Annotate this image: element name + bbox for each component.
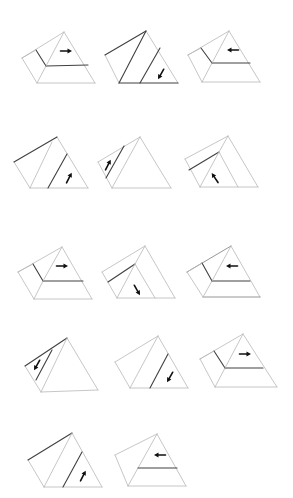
- pyramid-figure-8: [102, 246, 175, 298]
- pyramid-figure-13: [28, 433, 102, 487]
- figure-13-edge-1: [72, 433, 102, 487]
- figure-2-edge-1: [146, 31, 178, 83]
- figure-12-edge-3: [200, 359, 215, 387]
- figure-4-edge-3: [14, 162, 30, 188]
- figure-10-edge-2: [41, 390, 98, 392]
- arrow-left-icon: [154, 453, 166, 458]
- figure-14-edge-1: [157, 434, 186, 486]
- figure-3-edge-3: [188, 55, 202, 82]
- figure-3-edge-9: [188, 48, 201, 55]
- figure-14-edge-3: [115, 455, 128, 486]
- arrow-head: [154, 453, 159, 458]
- pyramid-figure-6: [185, 136, 258, 187]
- arrow-up-right-icon: [106, 160, 111, 170]
- figure-9-edge-9: [187, 263, 202, 272]
- pyramid-figure-5: [98, 137, 171, 188]
- pyramid-figure-1: [22, 32, 95, 83]
- figure-4-edge-4: [14, 137, 57, 162]
- figure-9-edge-3: [187, 272, 203, 297]
- arrow-head: [247, 352, 252, 357]
- figure-7-edge-9: [18, 264, 33, 272]
- figure-5-edge-3: [98, 162, 112, 188]
- pyramid-figure-11: [115, 336, 188, 388]
- figure-13-edge-6: [63, 452, 82, 487]
- pyramid-figure-10: [25, 338, 98, 392]
- pyramid-figure-4: [14, 137, 88, 188]
- figure-13-edge-3: [28, 460, 44, 487]
- figure-2-edge-3: [105, 55, 119, 83]
- figure-8-edge-5: [108, 264, 135, 282]
- figure-10-edge-6: [36, 350, 52, 380]
- figure-14-edge-5: [128, 434, 157, 486]
- figure-8-edge-1: [145, 246, 175, 298]
- figure-6-edge-1: [228, 136, 258, 187]
- arrow-down-right-icon: [134, 285, 140, 295]
- figure-12-edge-5: [214, 351, 225, 368]
- figure-7-edge-7: [34, 281, 43, 299]
- figure-9-edge-5: [202, 263, 212, 281]
- figure-4-edge-5: [30, 142, 52, 188]
- figure-11-edge-3: [115, 362, 130, 388]
- figure-2-edge-6: [140, 48, 160, 83]
- arrow-right-icon: [240, 352, 252, 357]
- arrow-right-icon: [61, 49, 73, 54]
- arrow-down-left-icon: [167, 372, 173, 382]
- figure-11-edge-4: [115, 336, 158, 362]
- figure-11-edge-1: [158, 336, 188, 388]
- figure-10-edge-1: [67, 338, 98, 390]
- figure-6-edge-3: [185, 159, 200, 187]
- figure-1-edge-6: [46, 65, 88, 66]
- figure-8-edge-7: [117, 264, 135, 298]
- figure-7-edge-1: [62, 247, 92, 299]
- figure-7-edge-5: [33, 264, 43, 281]
- figure-1-edge-9: [22, 50, 36, 58]
- figure-7-edge-3: [18, 272, 34, 299]
- figure-12-edge-1: [243, 334, 277, 387]
- arrow-down-left-icon: [158, 69, 164, 79]
- figure-8-edge-3: [102, 272, 117, 298]
- arrow-head: [227, 48, 232, 53]
- pyramid-figure-7: [18, 247, 92, 299]
- figure-9-edge-1: [231, 246, 260, 297]
- pyramid-figure-12: [200, 334, 277, 387]
- pyramid-puzzle-diagram: [0, 0, 293, 498]
- figure-3-edge-1: [229, 31, 260, 82]
- arrow-head: [64, 264, 69, 269]
- figure-1-edge-1: [64, 32, 95, 83]
- arrow-left-icon: [226, 264, 238, 269]
- pyramid-figure-3: [188, 31, 260, 82]
- figure-3-edge-5: [201, 48, 212, 63]
- arrow-up-right-icon: [67, 173, 72, 183]
- figure-1-edge-7: [37, 66, 46, 83]
- figure-4-edge-6: [48, 154, 67, 188]
- figure-3-edge-7: [202, 63, 212, 82]
- figure-12-edge-7: [215, 368, 225, 387]
- arrow-right-icon: [57, 264, 69, 269]
- figure-1-edge-3: [22, 58, 37, 83]
- pyramid-figure-14: [115, 434, 186, 486]
- figure-5-edge-4: [98, 137, 140, 162]
- arrow-down-left-icon: [34, 360, 40, 370]
- pyramid-figure-2: [105, 31, 178, 83]
- arrow-head: [68, 49, 73, 54]
- pyramid-figure-9: [187, 246, 260, 297]
- figure-6-edge-8: [219, 152, 238, 187]
- figure-10-edge-3: [25, 366, 41, 392]
- arrow-up-right-icon: [81, 471, 86, 481]
- arrow-left-icon: [227, 48, 239, 53]
- figure-9-edge-7: [203, 281, 212, 297]
- figure-5-edge-5: [112, 137, 140, 188]
- arrow-up-left-icon: [212, 173, 218, 183]
- figure-1-edge-5: [36, 50, 46, 66]
- figure-8-edge-4: [102, 246, 145, 272]
- figure-1-edge-8: [46, 32, 64, 66]
- figure-11-edge-6: [150, 354, 168, 388]
- arrow-head: [226, 264, 231, 269]
- figure-5-edge-1: [140, 137, 171, 188]
- figure-12-edge-9: [200, 351, 214, 359]
